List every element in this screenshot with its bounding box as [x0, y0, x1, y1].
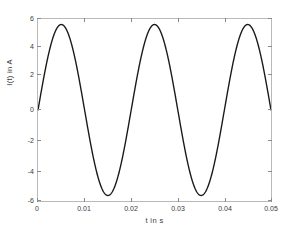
- xtick-label-003: 0.03: [171, 205, 185, 212]
- ytick-label-neg2: -2: [0, 137, 34, 144]
- xtick-label-0: 0: [35, 205, 39, 212]
- ytick-mark-right: [268, 74, 272, 75]
- ytick-mark: [37, 46, 41, 47]
- xtick-mark: [37, 198, 38, 202]
- ytick-mark-right: [268, 46, 272, 47]
- xtick-mark: [225, 198, 226, 202]
- sine-curve: [38, 19, 271, 201]
- xtick-mark-top: [225, 18, 226, 22]
- xtick-label-002: 0.02: [124, 205, 138, 212]
- plot-area: [37, 18, 272, 202]
- ytick-mark: [37, 74, 41, 75]
- xtick-mark: [84, 198, 85, 202]
- ytick-label-neg4: -4: [0, 168, 34, 175]
- x-axis-label: t in s: [37, 216, 272, 225]
- xtick-label-001: 0.01: [77, 205, 91, 212]
- y-axis-label: I(t) in A: [5, 31, 14, 115]
- xtick-mark: [131, 198, 132, 202]
- ytick-mark-right: [268, 171, 272, 172]
- xtick-mark-top: [131, 18, 132, 22]
- xtick-mark-top: [84, 18, 85, 22]
- ytick-label-6: 6: [0, 15, 34, 22]
- ytick-mark: [37, 171, 41, 172]
- figure-canvas: 6 4 2 0 -2 -4 -6 0 0.01 0.02 0.03 0.04 0…: [0, 0, 289, 235]
- ytick-label-neg6: -6: [0, 197, 34, 204]
- ytick-mark: [37, 109, 41, 110]
- xtick-mark: [178, 198, 179, 202]
- ytick-mark: [37, 140, 41, 141]
- ytick-mark-right: [268, 140, 272, 141]
- xtick-mark-top: [178, 18, 179, 22]
- ytick-mark-right: [268, 109, 272, 110]
- xtick-label-005: 0.05: [264, 205, 278, 212]
- xtick-label-004: 0.04: [218, 205, 232, 212]
- ytick-mark: [37, 18, 41, 19]
- ytick-mark-right: [268, 18, 272, 19]
- xtick-mark: [271, 198, 272, 202]
